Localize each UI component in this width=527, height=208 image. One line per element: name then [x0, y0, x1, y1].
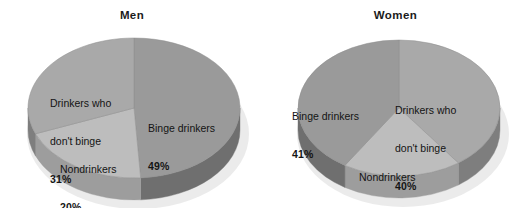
label-women-nondrinkers: Nondrinkers 19% [359, 146, 416, 208]
pie-chart-figure: Men Drinkers who don't binge 31% Nondrin… [0, 0, 527, 208]
label-women-binge-drinkers: Binge drinkers 41% [292, 85, 359, 186]
label-percent: 20% [60, 201, 117, 208]
label-percent: 49% [148, 160, 215, 173]
label-men-binge-drinkers: Binge drinkers 49% [148, 97, 215, 198]
label-text: Nondrinkers [60, 163, 117, 176]
label-percent: 41% [292, 148, 359, 161]
label-text: Binge drinkers [292, 110, 359, 123]
label-men-nondrinkers: Nondrinkers 20% [60, 138, 117, 208]
pie-men [0, 0, 264, 208]
chart-panel-men: Men Drinkers who don't binge 31% Nondrin… [0, 0, 264, 208]
label-text-line1: Drinkers who [50, 97, 111, 110]
label-text: Nondrinkers [359, 171, 416, 184]
label-text-line1: Drinkers who [395, 104, 456, 117]
chart-panel-women: Women Binge drinkers 41% Drinkers who do… [264, 0, 527, 208]
label-text: Binge drinkers [148, 122, 215, 135]
